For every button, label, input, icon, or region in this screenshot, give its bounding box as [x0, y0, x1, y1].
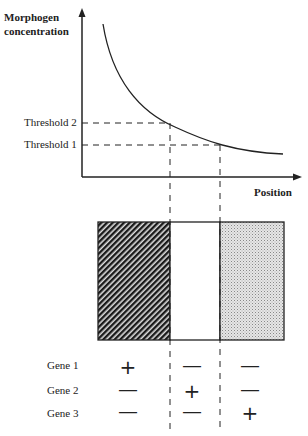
region-2-white [170, 222, 220, 340]
y-axis-label-line2: concentration [4, 24, 69, 38]
gene-1-label: Gene 1 [47, 359, 78, 371]
y-axis-label: Morphogen concentration [4, 10, 69, 38]
x-axis-label: Position [254, 186, 292, 198]
y-axis [79, 8, 86, 177]
gene-1-region-3-sign: — [240, 355, 260, 375]
gene-3-region-1-sign: — [118, 401, 138, 421]
y-axis-label-line1: Morphogen [4, 10, 69, 24]
gene-2-label: Gene 2 [47, 384, 78, 396]
gene-2-region-3-sign: — [240, 379, 260, 399]
morphogen-gradient-curve [103, 24, 283, 154]
gene-2-region-1-sign: — [118, 379, 138, 399]
gene-1-region-2-sign: — [182, 355, 202, 375]
gene-1-region-1-sign: + [118, 357, 138, 377]
region-1-hatched [98, 222, 170, 340]
gene-3-region-2-sign: — [182, 401, 202, 421]
gene-3-region-3-sign: + [240, 403, 260, 423]
gene-2-region-2-sign: + [182, 381, 202, 401]
region-3-stippled [220, 222, 284, 340]
x-axis [82, 174, 302, 181]
threshold-2-label: Threshold 2 [24, 116, 77, 128]
threshold-1-label: Threshold 1 [24, 138, 77, 150]
gene-3-label: Gene 3 [47, 407, 78, 419]
